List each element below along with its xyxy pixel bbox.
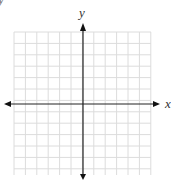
y-axis-up-arrow-icon [80, 23, 86, 31]
coordinate-plane [0, 0, 171, 180]
y-axis-label: y [79, 5, 85, 21]
y-axis [80, 23, 86, 180]
y-axis-down-arrow-icon [80, 174, 86, 180]
x-axis-left-arrow-icon [4, 101, 11, 107]
x-axis-label: x [165, 96, 171, 112]
x-axis-right-arrow-icon [153, 101, 160, 107]
